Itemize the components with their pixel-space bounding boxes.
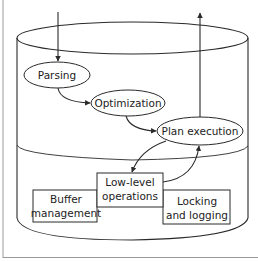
parsing-to-optimization-arrow	[58, 88, 90, 103]
lowlevel-to-plan-arrow	[163, 146, 199, 182]
node-buffer-line1: Buffer	[50, 193, 83, 205]
node-low-level-operations: Low-level operations	[97, 173, 163, 207]
node-locking-line1: Locking	[177, 195, 217, 207]
node-plan-execution: Plan execution	[157, 117, 243, 145]
node-lowlevel-line2: operations	[102, 190, 158, 202]
node-parsing-label: Parsing	[38, 69, 76, 81]
node-lowlevel-line1: Low-level	[105, 176, 154, 188]
cylinder-top	[17, 22, 248, 54]
plan-to-lowlevel-arrow	[132, 141, 166, 172]
node-plan-execution-label: Plan execution	[162, 125, 239, 137]
node-buffer-line2: management	[31, 207, 101, 219]
node-buffer-management: Buffer management	[31, 190, 101, 222]
cylinder-middle-band	[17, 145, 248, 160]
node-locking-logging: Locking and logging	[163, 190, 230, 224]
node-optimization-label: Optimization	[94, 97, 161, 109]
node-locking-line2: and logging	[166, 209, 228, 221]
node-optimization: Optimization	[91, 90, 165, 116]
node-parsing: Parsing	[24, 62, 90, 88]
optimization-to-plan-arrow	[126, 116, 156, 131]
diagram-canvas: Parsing Optimization Plan execution Buff…	[0, 0, 258, 261]
